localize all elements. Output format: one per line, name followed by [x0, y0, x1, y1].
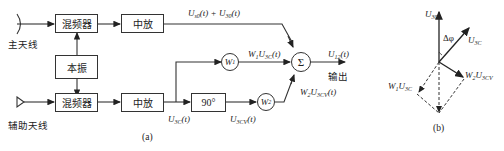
vector-aux-label: U3C [468, 36, 482, 46]
w2-sub: 2 [268, 99, 271, 105]
output-signal-label: U12(t) [328, 50, 349, 60]
vector-w1-label: W1U3C [388, 82, 412, 92]
w2-label: W [261, 97, 269, 107]
aux-shifted-signal-label: U3CV(t) [230, 115, 256, 125]
phase-shift-90-box: 90° [191, 93, 226, 112]
if-amp-top-box: 中放 [121, 14, 164, 33]
caption-b: (b) [433, 124, 444, 134]
if-amp-bottom-box: 中放 [121, 93, 164, 112]
weight-w1-circle: W1 [221, 53, 239, 71]
mixer-bottom-box: 混频器 [55, 93, 98, 112]
w1-label: W [225, 57, 233, 67]
caption-a: (a) [142, 133, 153, 143]
aux-if-signal-label: U3C(t) [168, 115, 190, 125]
w1-output-label: W1U3C(t) [248, 50, 281, 60]
diagram-root: 混频器 中放 本振 混频器 中放 90° W1 W2 Σ 主天线 辅助天线 输出… [0, 0, 504, 151]
main-antenna-label: 主天线 [8, 40, 38, 50]
summer-circle: Σ [291, 52, 311, 72]
aux-antenna-label: 辅助天线 [8, 121, 48, 131]
mixer-top-box: 混频器 [55, 14, 98, 33]
phase-angle-label: Δφ [443, 34, 454, 43]
weight-w2-circle: W2 [257, 93, 275, 111]
w1-sub: 1 [232, 59, 235, 65]
aux-antenna-icon [17, 97, 24, 107]
local-oscillator-box: 本振 [55, 55, 98, 79]
w2-output-label: W2U3CV(t) [300, 88, 336, 98]
vector-main-label: U30 [425, 10, 438, 20]
main-signal-label: Us0(t) + U30(t) [188, 9, 240, 19]
vector-w2-label: W2U3CV [465, 71, 493, 81]
output-label: 输出 [328, 72, 348, 82]
